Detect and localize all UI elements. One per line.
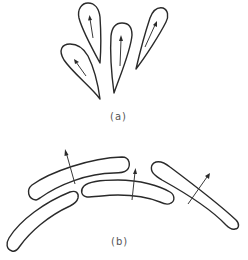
panel-b-label: (b) (111, 236, 128, 247)
figure: (a) (b) (0, 0, 248, 260)
arrow-head-icon (133, 168, 137, 174)
arrow-icon (188, 177, 207, 204)
arrow-head-icon (65, 149, 69, 156)
teardrop-2 (79, 3, 101, 63)
arrow-head-icon (119, 35, 123, 41)
panel-a-label: (a) (110, 111, 127, 122)
arrow-icon (76, 62, 86, 76)
bar-right (151, 162, 238, 230)
arrow-icon (120, 40, 121, 66)
arrow-head-icon (74, 59, 79, 64)
bar-middle (82, 168, 174, 204)
teardrop-3 (111, 23, 132, 93)
bar-upper-left (29, 149, 130, 200)
diagram-canvas (0, 0, 248, 260)
arrow-icon (90, 19, 93, 38)
teardrop-4 (136, 8, 168, 69)
panel-a (61, 3, 168, 99)
arrow-head-icon (88, 15, 92, 21)
bar-lower-left (7, 191, 78, 251)
